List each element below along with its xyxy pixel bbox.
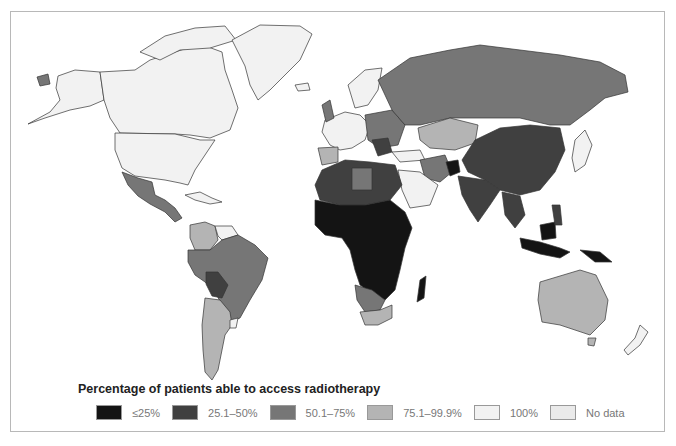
region-kamchatka-west [37, 74, 50, 86]
region-uk [322, 100, 334, 122]
region-russia [378, 45, 628, 125]
legend-swatch [270, 405, 296, 420]
region-sub-saharan-africa [315, 200, 412, 300]
legend-swatch [172, 405, 198, 420]
legend-swatch [96, 405, 122, 420]
legend-item-le25: ≤25% [96, 405, 160, 420]
region-madagascar [417, 276, 426, 302]
region-colombia-venezuela [190, 222, 218, 250]
region-new-zealand [624, 325, 648, 355]
region-iberia [318, 147, 338, 165]
legend-title: Percentage of patients able to access ra… [78, 382, 380, 396]
region-japan [572, 130, 592, 172]
legend-item-25-50: 25.1–50% [172, 405, 258, 420]
world-choropleth-map [0, 0, 676, 446]
region-scandinavia [348, 68, 382, 108]
legend-item-75-99: 75.1–99.9% [367, 405, 462, 420]
region-southeast-asia [502, 192, 525, 228]
legend-label: 25.1–50% [208, 407, 258, 419]
legend-label: No data [586, 407, 625, 419]
legend-label: ≤25% [132, 407, 160, 419]
region-uruguay [230, 318, 238, 328]
region-caribbean [185, 192, 222, 204]
region-indonesia [520, 238, 570, 258]
legend-label: 50.1–75% [306, 407, 356, 419]
legend-swatch [367, 405, 393, 420]
region-iceland [295, 83, 310, 91]
legend-label: 75.1–99.9% [403, 407, 462, 419]
region-balkans [372, 138, 392, 156]
legend-swatch [550, 405, 576, 420]
region-png [580, 250, 612, 262]
legend-label: 100% [510, 407, 538, 419]
region-australia [538, 270, 608, 335]
legend-item-50-75: 50.1–75% [270, 405, 356, 420]
region-canada [100, 44, 238, 138]
region-borneo [540, 222, 556, 240]
legend-swatch [474, 405, 500, 420]
region-tasmania [588, 338, 596, 346]
region-libya [352, 168, 372, 190]
legend-item-100: 100% [474, 405, 538, 420]
region-argentina-chile [202, 298, 232, 380]
legend-item-no-data: No data [550, 405, 625, 420]
legend: ≤25% 25.1–50% 50.1–75% 75.1–99.9% 100% N… [96, 405, 637, 420]
